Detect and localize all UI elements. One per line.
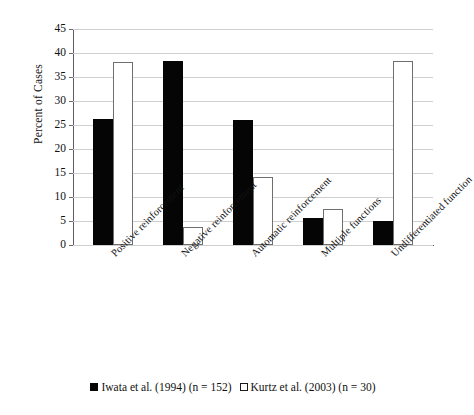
bar	[373, 221, 393, 245]
y-axis-tick-mark	[69, 197, 73, 198]
y-axis-tick-mark	[69, 125, 73, 126]
y-axis-tick-mark	[69, 221, 73, 222]
y-axis-tick-label: 30	[55, 95, 67, 107]
bar	[113, 62, 133, 245]
y-axis-tick-label: 5	[60, 215, 66, 227]
y-axis-tick-label: 40	[55, 47, 67, 59]
gridline	[73, 53, 433, 54]
y-axis-tick-mark	[69, 29, 73, 30]
plot-area: 051015202530354045	[73, 29, 433, 245]
legend-swatch-filled-icon	[90, 383, 98, 391]
chart-legend: Iwata et al. (1994) (n = 152)Kurtz et al…	[0, 381, 466, 393]
y-axis-title: Percent of Cases	[32, 24, 44, 184]
y-axis-tick-mark	[69, 173, 73, 174]
bar	[393, 61, 413, 245]
legend-entry: Kurtz et al. (2003) (n = 30)	[240, 381, 376, 393]
gridline	[73, 29, 433, 30]
y-axis-tick-mark	[69, 245, 73, 246]
y-axis-tick-label: 25	[55, 119, 67, 131]
y-axis-tick-label: 15	[55, 167, 67, 179]
legend-swatch-hollow-icon	[240, 383, 248, 391]
bar	[163, 61, 183, 245]
y-axis-tick-mark	[69, 101, 73, 102]
legend-label: Iwata et al. (1994) (n = 152)	[101, 381, 231, 393]
bar	[93, 119, 113, 245]
y-axis-tick-label: 10	[55, 191, 67, 203]
y-axis-tick-mark	[69, 77, 73, 78]
y-axis-tick-mark	[69, 149, 73, 150]
y-axis-tick-label: 45	[55, 23, 67, 35]
y-axis-tick-label: 0	[60, 239, 66, 251]
bar	[303, 218, 323, 245]
y-axis-tick-label: 20	[55, 143, 67, 155]
y-axis-tick-label: 35	[55, 71, 67, 83]
legend-entry: Iwata et al. (1994) (n = 152)	[90, 381, 231, 393]
y-axis-tick-mark	[69, 53, 73, 54]
legend-label: Kurtz et al. (2003) (n = 30)	[251, 381, 376, 393]
